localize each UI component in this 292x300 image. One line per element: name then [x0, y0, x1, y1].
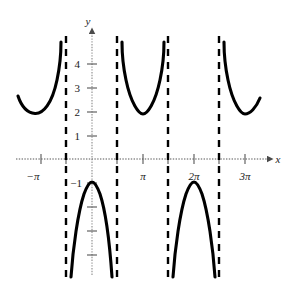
y-axis-label: y	[85, 15, 91, 27]
axes-group	[16, 33, 268, 275]
x-tick-label-pi: π	[140, 170, 146, 182]
lower-right-branch	[173, 182, 215, 277]
y-tick-label-4: 4	[75, 58, 81, 70]
plot-canvas: y x −π π 2π 3π 1 2 3 4 −1	[0, 0, 292, 300]
x-tick-label--pi: −π	[27, 170, 40, 182]
upper-right-branch	[224, 42, 260, 114]
y-tick-label-3: 3	[75, 82, 81, 94]
graph-figure: y x −π π 2π 3π 1 2 3 4 −1	[0, 0, 292, 300]
y-tick-label-2: 2	[75, 106, 81, 118]
y-tick-label--1: −1	[70, 177, 82, 189]
x-tick-label-2pi: 2π	[188, 170, 200, 182]
x-tick-marks	[41, 154, 245, 164]
x-axis-label: x	[275, 153, 281, 165]
upper-middle-branch	[122, 42, 164, 114]
y-tick-label-1: 1	[75, 130, 81, 142]
upper-left-branch	[18, 42, 61, 114]
x-tick-label-3pi: 3π	[238, 170, 251, 182]
